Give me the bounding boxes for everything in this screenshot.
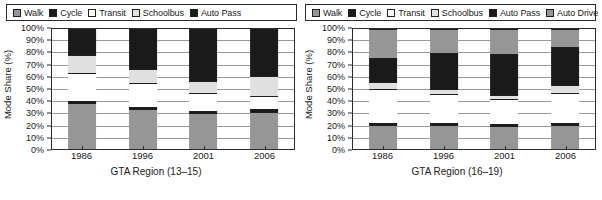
x-tick-label: 1986 bbox=[51, 150, 112, 162]
legend-label: Walk bbox=[24, 8, 43, 18]
bar-slot bbox=[52, 29, 113, 149]
stacked-bar[interactable] bbox=[430, 29, 458, 149]
bar-segment[interactable] bbox=[189, 93, 217, 111]
bar-segment[interactable] bbox=[430, 94, 458, 123]
legend-label: Auto Drive bbox=[557, 8, 598, 18]
bar-segment[interactable] bbox=[129, 109, 157, 149]
bar-segment[interactable] bbox=[129, 83, 157, 107]
y-tick-label: 40% bbox=[327, 97, 345, 106]
bar-segment[interactable] bbox=[189, 113, 217, 149]
legend-label: Auto Pass bbox=[500, 8, 540, 18]
bar-segment[interactable] bbox=[430, 29, 458, 53]
bar-segment[interactable] bbox=[551, 29, 579, 47]
bar-segment[interactable] bbox=[430, 123, 458, 125]
x-tick-mark bbox=[265, 146, 266, 150]
bar-segment[interactable] bbox=[68, 101, 96, 103]
legend-swatch-icon bbox=[431, 9, 439, 17]
bar-segment[interactable] bbox=[490, 99, 518, 124]
bar-slot bbox=[414, 29, 475, 149]
legend-swatch-icon bbox=[49, 9, 57, 17]
legend-swatch-icon bbox=[387, 9, 395, 17]
bar-segment[interactable] bbox=[490, 124, 518, 126]
legend-swatch-icon bbox=[546, 9, 554, 17]
stacked-bar[interactable] bbox=[129, 29, 157, 149]
bar-segment[interactable] bbox=[189, 111, 217, 113]
bar-segment[interactable] bbox=[68, 55, 96, 73]
y-tick-label: 50% bbox=[327, 85, 345, 94]
stacked-bar[interactable] bbox=[369, 29, 397, 149]
y-tick-label: 10% bbox=[327, 133, 345, 142]
bar-segment[interactable] bbox=[250, 109, 278, 111]
legend-left: WalkCycleTransitSchoolbusAuto Pass bbox=[6, 4, 297, 21]
x-axis-ticks-right: 1986199620012006 bbox=[352, 150, 596, 164]
bar-segment[interactable] bbox=[551, 47, 579, 85]
x-tick: 1996 bbox=[413, 150, 474, 164]
legend-item: Transit bbox=[387, 8, 424, 18]
x-tick-mark bbox=[566, 146, 567, 150]
bar-segment[interactable] bbox=[551, 93, 579, 123]
bar-segment[interactable] bbox=[129, 69, 157, 83]
bar-segment[interactable] bbox=[369, 123, 397, 125]
bar-segment[interactable] bbox=[369, 89, 397, 123]
bar-segment[interactable] bbox=[490, 54, 518, 95]
x-axis-label-right: GTA Region (16–19) bbox=[318, 166, 596, 177]
chart-panel-left: WalkCycleTransitSchoolbusAuto Pass Mode … bbox=[0, 0, 301, 200]
x-tick: 1986 bbox=[352, 150, 413, 164]
y-axis-label-right: Mode Share (%) bbox=[302, 24, 316, 144]
legend-swatch-icon bbox=[190, 9, 198, 17]
x-tick: 2001 bbox=[474, 150, 535, 164]
bar-segment[interactable] bbox=[430, 53, 458, 89]
bar-segment[interactable] bbox=[369, 58, 397, 82]
stacked-bar[interactable] bbox=[551, 29, 579, 149]
bar-segment[interactable] bbox=[250, 76, 278, 96]
y-tick-label: 90% bbox=[327, 36, 345, 45]
legend-item: Transit bbox=[88, 8, 125, 18]
stacked-bar[interactable] bbox=[68, 29, 96, 149]
stacked-bar[interactable] bbox=[250, 29, 278, 149]
bar-segment[interactable] bbox=[490, 95, 518, 99]
y-tick-label: 100% bbox=[322, 24, 345, 33]
legend-label: Transit bbox=[99, 8, 125, 18]
bar-slot bbox=[173, 29, 234, 149]
y-tick-label: 20% bbox=[327, 121, 345, 130]
bar-segment[interactable] bbox=[250, 112, 278, 149]
chart-panel-right: WalkCycleTransitSchoolbusAuto PassAuto D… bbox=[301, 0, 602, 200]
bar-segment[interactable] bbox=[250, 29, 278, 76]
bar-segment[interactable] bbox=[250, 96, 278, 109]
legend-swatch-icon bbox=[312, 9, 320, 17]
stacked-bar[interactable] bbox=[490, 29, 518, 149]
y-axis-label-left: Mode Share (%) bbox=[1, 24, 15, 144]
bar-segment[interactable] bbox=[129, 29, 157, 69]
legend-item: Cycle bbox=[49, 8, 82, 18]
bar-segment[interactable] bbox=[189, 29, 217, 81]
y-axis-ticks-right: 0%10%20%30%40%50%60%70%80%90%100% bbox=[318, 28, 348, 150]
bar-slot bbox=[535, 29, 596, 149]
legend-item: Schoolbus bbox=[132, 8, 184, 18]
bar-segment[interactable] bbox=[551, 85, 579, 92]
legend-item: Walk bbox=[312, 8, 342, 18]
bar-segment[interactable] bbox=[189, 81, 217, 93]
bar-group-left bbox=[52, 29, 294, 149]
y-tick-label: 40% bbox=[26, 97, 44, 106]
x-axis-ticks-left: 1986199620012006 bbox=[51, 150, 295, 164]
legend-swatch-icon bbox=[13, 9, 21, 17]
legend-swatch-icon bbox=[489, 9, 497, 17]
bar-slot bbox=[353, 29, 414, 149]
stacked-bar[interactable] bbox=[189, 29, 217, 149]
y-axis-label-text: Mode Share (%) bbox=[304, 49, 315, 118]
bar-segment[interactable] bbox=[551, 123, 579, 125]
y-tick-label: 30% bbox=[26, 109, 44, 118]
bar-segment[interactable] bbox=[430, 89, 458, 94]
y-tick-label: 80% bbox=[26, 48, 44, 57]
bar-segment[interactable] bbox=[129, 107, 157, 109]
bar-segment[interactable] bbox=[369, 29, 397, 58]
stacked-bar-figure: WalkCycleTransitSchoolbusAuto Pass Mode … bbox=[0, 0, 602, 200]
x-tick: 2001 bbox=[173, 150, 234, 164]
x-tick-label: 1996 bbox=[112, 150, 173, 162]
bar-segment[interactable] bbox=[369, 82, 397, 89]
bar-segment[interactable] bbox=[68, 103, 96, 149]
bar-segment[interactable] bbox=[490, 29, 518, 54]
bar-segment[interactable] bbox=[68, 73, 96, 101]
bar-segment[interactable] bbox=[68, 29, 96, 55]
x-tick: 1986 bbox=[51, 150, 112, 164]
